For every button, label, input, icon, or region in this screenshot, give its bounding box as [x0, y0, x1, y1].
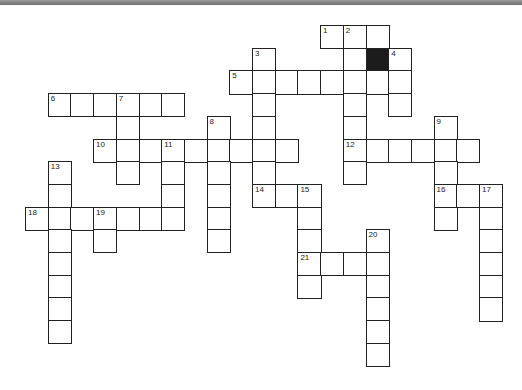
crossword-cell[interactable] [252, 116, 276, 140]
crossword-cell[interactable] [320, 70, 344, 94]
crossword-cell[interactable] [48, 297, 72, 321]
crossword-cell[interactable] [93, 93, 117, 117]
crossword-cell[interactable] [343, 161, 367, 185]
crossword-cell[interactable]: 9 [434, 116, 458, 140]
crossword-cell[interactable] [184, 139, 208, 163]
clue-number: 3 [255, 49, 259, 58]
crossword-cell[interactable] [479, 297, 503, 321]
crossword-cell[interactable]: 6 [48, 93, 72, 117]
crossword-cell[interactable] [343, 116, 367, 140]
crossword-cell[interactable] [48, 320, 72, 344]
crossword-cell[interactable]: 3 [252, 48, 276, 72]
crossword-cell[interactable] [479, 207, 503, 231]
crossword-cell[interactable] [161, 184, 185, 208]
crossword-cell[interactable] [343, 48, 367, 72]
crossword-cell[interactable] [388, 93, 412, 117]
crossword-cell[interactable] [207, 161, 231, 185]
crossword-cell[interactable] [434, 139, 458, 163]
crossword-cell[interactable] [116, 139, 140, 163]
crossword-cell[interactable] [207, 207, 231, 231]
crossword-cell[interactable] [366, 297, 390, 321]
crossword-cell[interactable] [434, 161, 458, 185]
crossword-cell[interactable]: 17 [479, 184, 503, 208]
crossword-cell[interactable] [343, 252, 367, 276]
crossword-cell[interactable]: 8 [207, 116, 231, 140]
crossword-cell[interactable]: 21 [297, 252, 321, 276]
clue-number: 19 [96, 208, 105, 217]
crossword-cell[interactable]: 18 [25, 207, 49, 231]
crossword-cell[interactable]: 5 [229, 70, 253, 94]
crossword-cell[interactable]: 2 [343, 25, 367, 49]
crossword-cell[interactable] [388, 139, 412, 163]
crossword-cell[interactable] [70, 207, 94, 231]
clue-number: 8 [210, 117, 214, 126]
crossword-cell[interactable] [366, 252, 390, 276]
crossword-cell[interactable] [366, 320, 390, 344]
clue-number: 12 [346, 140, 355, 149]
crossword-cell[interactable] [207, 229, 231, 253]
crossword-cell[interactable] [366, 25, 390, 49]
crossword-cell[interactable]: 20 [366, 229, 390, 253]
crossword-cell[interactable] [93, 229, 117, 253]
crossword-cell[interactable] [479, 275, 503, 299]
crossword-cell[interactable] [297, 207, 321, 231]
crossword-cell[interactable] [434, 207, 458, 231]
crossword-cell[interactable]: 13 [48, 161, 72, 185]
crossword-cell[interactable] [343, 70, 367, 94]
crossword-cell[interactable] [161, 93, 185, 117]
crossword-cell[interactable] [479, 229, 503, 253]
clue-number: 1 [323, 26, 327, 35]
crossword-cell[interactable] [275, 139, 299, 163]
crossword-cell[interactable] [388, 70, 412, 94]
crossword-cell[interactable] [252, 93, 276, 117]
crossword-cell[interactable] [48, 252, 72, 276]
crossword-cell[interactable] [456, 184, 480, 208]
crossword-cell[interactable]: 14 [252, 184, 276, 208]
crossword-cell[interactable] [116, 161, 140, 185]
crossword-cell[interactable]: 4 [388, 48, 412, 72]
crossword-cell[interactable] [343, 93, 367, 117]
crossword-cell[interactable] [116, 116, 140, 140]
crossword-cell[interactable] [48, 229, 72, 253]
crossword-cell[interactable] [139, 207, 163, 231]
crossword-cell[interactable]: 16 [434, 184, 458, 208]
crossword-cell[interactable] [70, 93, 94, 117]
crossword-cell[interactable]: 12 [343, 139, 367, 163]
clue-number: 5 [232, 71, 236, 80]
crossword-cell[interactable]: 7 [116, 93, 140, 117]
crossword-cell[interactable]: 1 [320, 25, 344, 49]
crossword-cell[interactable] [320, 252, 344, 276]
crossword-cell[interactable] [297, 70, 321, 94]
crossword-cell[interactable] [366, 139, 390, 163]
crossword-cell[interactable] [411, 139, 435, 163]
crossword-cell[interactable] [161, 207, 185, 231]
clue-number: 10 [96, 140, 105, 149]
crossword-cell[interactable]: 19 [93, 207, 117, 231]
crossword-cell[interactable] [456, 139, 480, 163]
crossword-cell[interactable] [297, 229, 321, 253]
crossword-cell[interactable] [161, 161, 185, 185]
crossword-cell[interactable] [139, 93, 163, 117]
crossword-cell[interactable] [275, 184, 299, 208]
crossword-cell[interactable] [48, 207, 72, 231]
crossword-cell[interactable] [229, 139, 253, 163]
crossword-cell[interactable] [297, 275, 321, 299]
crossword-cell[interactable] [207, 184, 231, 208]
crossword-cell[interactable] [275, 70, 299, 94]
crossword-cell[interactable] [479, 252, 503, 276]
crossword-cell[interactable]: 11 [161, 139, 185, 163]
crossword-cell[interactable] [116, 207, 140, 231]
crossword-cell[interactable] [252, 70, 276, 94]
crossword-cell[interactable]: 10 [93, 139, 117, 163]
crossword-cell[interactable]: 15 [297, 184, 321, 208]
crossword-cell[interactable] [48, 184, 72, 208]
crossword-cell[interactable] [366, 343, 390, 367]
crossword-cell[interactable] [207, 139, 231, 163]
crossword-cell[interactable] [252, 139, 276, 163]
crossword-cell[interactable] [48, 275, 72, 299]
crossword-cell[interactable] [252, 161, 276, 185]
crossword-cell[interactable] [366, 275, 390, 299]
clue-number: 11 [164, 140, 172, 149]
crossword-cell[interactable] [139, 139, 163, 163]
crossword-cell[interactable] [366, 70, 390, 94]
